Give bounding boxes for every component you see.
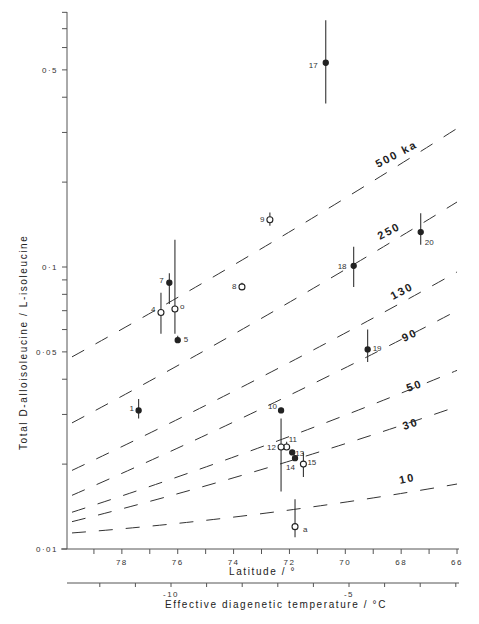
open-marker xyxy=(300,461,306,467)
open-marker xyxy=(278,444,284,450)
y-tick-label: 0·01 xyxy=(36,545,58,554)
open-marker xyxy=(239,284,245,290)
x-tick-label: 66 xyxy=(451,558,463,567)
isochron-curve xyxy=(72,407,457,522)
point-label: o xyxy=(180,302,185,311)
data-point-20: 20 xyxy=(418,213,434,247)
data-point-17: 17 xyxy=(309,20,329,103)
point-label: a xyxy=(303,525,308,534)
data-point-18: 18 xyxy=(338,247,357,287)
filled-marker xyxy=(175,338,180,343)
isochron-label: 500 ka xyxy=(373,138,419,170)
isochron-curve xyxy=(72,484,457,533)
data-point-12: 12 xyxy=(267,419,284,492)
point-label: 20 xyxy=(425,238,434,247)
data-point-10: 10 xyxy=(268,402,284,413)
isochron-label: 250 xyxy=(375,220,402,242)
point-label: 4 xyxy=(151,305,156,314)
isochron-curves: 500 ka25013090503010 xyxy=(72,128,457,533)
isochron-label: 50 xyxy=(405,377,424,394)
isochron-label: 90 xyxy=(400,326,420,344)
filled-marker xyxy=(290,450,295,455)
isochron-curve xyxy=(72,202,457,423)
filled-marker xyxy=(418,229,423,234)
point-label: 5 xyxy=(184,335,189,344)
open-marker xyxy=(158,309,164,315)
x-tick-label: 70 xyxy=(339,558,351,567)
data-point-11: 11 xyxy=(284,435,298,450)
data-point-a: a xyxy=(292,499,308,537)
data-point-8: 8 xyxy=(232,282,245,291)
open-marker xyxy=(292,524,298,530)
filled-marker xyxy=(351,263,356,268)
data-point-4: 4 xyxy=(151,293,164,334)
y-axis-title: Total D-alloisoleucine / L-isoleucine xyxy=(18,235,29,450)
data-point-9: 9 xyxy=(260,213,273,226)
x-tick-label: 76 xyxy=(172,558,184,567)
data-point-14: 14 xyxy=(286,456,298,473)
x-axis-temperature: -10-5 xyxy=(67,583,459,599)
chart-canvas: 0·010·050·10·5 78767472706866 -10-5 Tota… xyxy=(0,0,479,624)
filled-marker xyxy=(278,408,283,413)
point-label: 10 xyxy=(268,402,277,411)
point-label: 7 xyxy=(159,276,164,285)
point-label: 12 xyxy=(267,443,276,452)
point-label: 14 xyxy=(286,463,295,472)
data-point-15: 15 xyxy=(300,452,316,477)
y-axis: 0·010·050·10·5 xyxy=(36,12,67,554)
data-point-19: 19 xyxy=(365,330,382,363)
isochron-curve xyxy=(72,272,457,470)
isochron-label: 30 xyxy=(401,415,420,431)
x-axis-title: Latitude / ° xyxy=(229,566,296,577)
y-tick-label: 0·5 xyxy=(42,66,58,75)
data-point-6: o xyxy=(172,240,185,334)
x-tick-label: 78 xyxy=(116,558,128,567)
filled-marker xyxy=(136,408,141,413)
point-label: 15 xyxy=(307,458,316,467)
x-axis-latitude: 78767472706866 xyxy=(61,549,463,567)
x2-axis-title: Effective diagenetic temperature / °C xyxy=(165,599,387,610)
data-point-1: 1 xyxy=(130,399,142,418)
open-marker xyxy=(267,217,273,223)
isochron-label: 130 xyxy=(388,280,415,302)
point-label: 11 xyxy=(289,435,298,444)
filled-marker xyxy=(323,60,328,65)
filled-marker xyxy=(292,456,297,461)
data-points: 145o789101112131415a17181920 xyxy=(130,20,435,537)
filled-marker xyxy=(167,280,172,285)
data-point-5: 5 xyxy=(175,335,189,344)
x2-tick-label: -10 xyxy=(163,590,179,599)
isochron-curve xyxy=(72,311,457,496)
open-marker xyxy=(172,306,178,312)
point-label: 1 xyxy=(130,404,135,413)
point-label: 17 xyxy=(309,61,318,70)
point-label: 9 xyxy=(260,215,265,224)
x-tick-label: 68 xyxy=(395,558,407,567)
filled-marker xyxy=(365,347,370,352)
point-label: 8 xyxy=(232,282,237,291)
x2-tick-label: -5 xyxy=(344,590,354,599)
point-label: 18 xyxy=(338,262,347,271)
y-tick-label: 0·1 xyxy=(42,263,58,272)
isochron-label: 10 xyxy=(398,471,416,486)
point-label: 19 xyxy=(373,344,382,353)
isochron-curve xyxy=(72,128,457,356)
y-tick-label: 0·05 xyxy=(36,348,58,357)
